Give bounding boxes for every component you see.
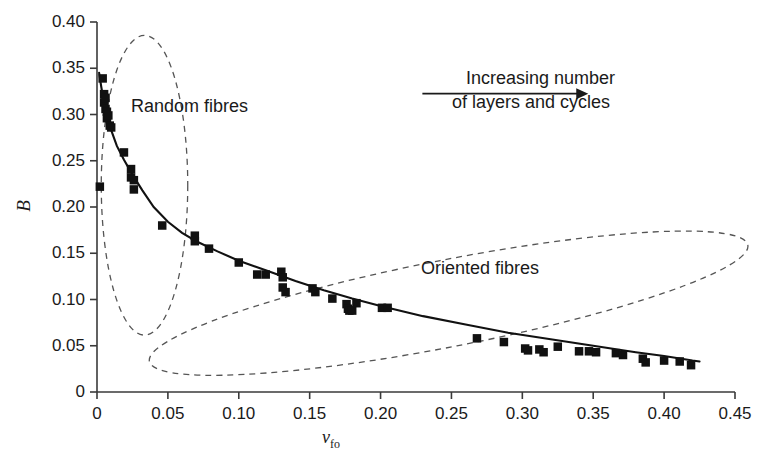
data-point	[104, 111, 113, 120]
data-point	[120, 148, 129, 157]
data-point	[281, 288, 290, 297]
data-point	[130, 185, 139, 194]
data-point	[101, 94, 110, 103]
data-point	[328, 294, 337, 303]
y-tick-label: 0.05	[52, 336, 85, 356]
y-tick-label: 0.25	[52, 151, 85, 171]
data-point	[261, 270, 270, 279]
oriented-fibres-ellipse	[141, 202, 756, 404]
data-point	[235, 258, 244, 267]
data-point	[191, 237, 200, 246]
oriented-fibres-label: Oriented fibres	[421, 258, 539, 279]
y-tick-label: 0.15	[52, 243, 85, 263]
y-axis-ticks	[90, 22, 97, 392]
random-fibres-label: Random fibres	[131, 96, 248, 117]
axes	[97, 22, 735, 392]
data-point	[619, 351, 628, 360]
data-point	[500, 338, 509, 347]
x-axis-label-symbol: v	[322, 427, 330, 447]
data-point	[348, 306, 357, 315]
data-point	[352, 299, 361, 308]
y-tick-label: 0.30	[52, 105, 85, 125]
y-tick-label: 0.40	[52, 12, 85, 32]
x-axis-label: vfo	[322, 427, 340, 452]
data-point-markers	[96, 74, 696, 369]
data-point	[98, 74, 107, 83]
data-point	[96, 182, 105, 191]
data-point	[524, 346, 533, 355]
data-point	[205, 244, 214, 253]
data-point	[675, 357, 684, 366]
data-point	[660, 356, 669, 365]
trend-arrow-label-line2: of layers and cycles	[452, 92, 610, 113]
x-axis-label-subscript: fo	[330, 437, 340, 451]
x-tick-label: 0.45	[675, 404, 763, 424]
data-point	[592, 348, 601, 357]
data-point	[473, 334, 482, 343]
data-point	[554, 342, 563, 351]
data-point	[107, 123, 116, 132]
y-tick-label: 0	[76, 382, 85, 402]
data-point	[687, 361, 696, 370]
trend-arrow-label-line1: Increasing number	[466, 68, 615, 89]
data-point	[253, 270, 262, 279]
y-tick-label: 0.35	[52, 58, 85, 78]
y-tick-label: 0.20	[52, 197, 85, 217]
y-tick-label: 0.10	[52, 290, 85, 310]
data-point	[539, 348, 548, 357]
x-axis-ticks	[97, 392, 735, 399]
data-point	[130, 176, 139, 185]
data-point	[158, 221, 167, 230]
data-point	[383, 304, 392, 313]
data-point	[311, 288, 320, 297]
data-point	[575, 347, 584, 356]
y-axis-label: B	[13, 186, 35, 226]
chart-figure: B vfo Random fibres Oriented fibres Incr…	[0, 0, 763, 475]
random-fibres-ellipse	[101, 35, 187, 335]
data-point	[127, 165, 136, 174]
data-point	[641, 358, 650, 367]
data-point	[278, 273, 287, 282]
